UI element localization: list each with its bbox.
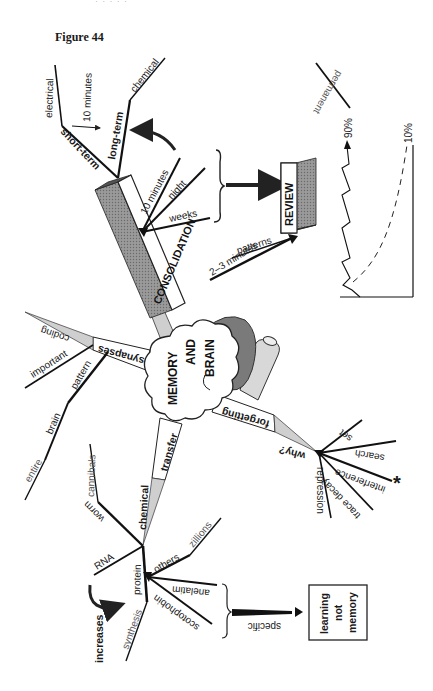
increases-label: increases <box>93 614 105 663</box>
center-line2: AND <box>184 339 198 365</box>
no-review-curve <box>353 145 407 282</box>
repression-label: repression <box>315 467 326 514</box>
synthesis-label: synthesis <box>120 608 145 651</box>
brace-icon <box>214 150 224 222</box>
anelatim-label: anelatim <box>171 584 210 599</box>
search-label: search <box>354 448 385 464</box>
consolidation-branch: CONSOLIDATION short-term long-term elect… <box>43 56 282 345</box>
chemical-label-top: chemical <box>128 56 161 94</box>
protein-label: protein <box>131 564 143 595</box>
curved-arrow-icon <box>135 130 175 150</box>
review-chart: 90% 10% permanent <box>311 63 414 297</box>
transfer-brace-icon <box>222 584 231 638</box>
others-label: others <box>152 551 182 574</box>
worm-label: worm <box>81 499 107 525</box>
set-label: set <box>337 427 354 444</box>
interference-label: interference <box>333 467 387 496</box>
electrical-label: electrical <box>43 78 55 118</box>
result-line2: not <box>332 604 344 621</box>
pct-high-label: 90% <box>343 118 354 138</box>
result-line3: memory <box>346 592 358 633</box>
ten-minutes-arrow-label: 10 minutes <box>81 73 94 122</box>
forgetting-branch: forgetting why? set search interference … <box>212 395 401 521</box>
chemical-transfer-label: chemical <box>136 485 150 531</box>
pct-low-label: 10% <box>403 123 414 143</box>
mind-map: CONSOLIDATION short-term long-term elect… <box>0 0 433 691</box>
center-line1: MEMORY <box>166 351 180 405</box>
result-line1: learning <box>318 593 330 634</box>
entire-label: entire <box>22 456 44 484</box>
review-curve <box>342 146 360 297</box>
review-label: REVIEW <box>283 182 295 226</box>
center-line3: BRAIN <box>203 339 217 377</box>
zillions-label: zillions <box>186 519 214 549</box>
why-label: why? <box>277 444 307 463</box>
permanent-label: permanent <box>311 69 345 116</box>
cannibals-label: cannibals <box>85 454 97 497</box>
review-box: REVIEW patterns 2–3 minutes <box>207 158 316 280</box>
interference-asterisk: * <box>393 472 401 494</box>
specific-arrow-icon <box>232 609 292 616</box>
specific-label: specific <box>248 621 281 632</box>
increases-arrow-icon <box>90 585 120 608</box>
short-term-label: short-term <box>59 125 104 172</box>
